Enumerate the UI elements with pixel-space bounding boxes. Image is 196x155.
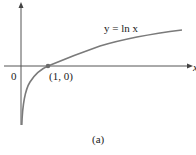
y-axis-arrow-icon bbox=[19, 2, 24, 8]
point-1-0 bbox=[46, 64, 51, 69]
ln-curve bbox=[22, 30, 182, 125]
x-axis-label: x bbox=[192, 61, 196, 73]
origin-label: 0 bbox=[11, 70, 17, 82]
curve-label: y = ln x bbox=[104, 22, 139, 34]
point-label: (1, 0) bbox=[49, 70, 73, 83]
ln-graph: 0 (1, 0) y = ln x x (a) bbox=[0, 0, 196, 155]
caption: (a) bbox=[92, 133, 105, 146]
